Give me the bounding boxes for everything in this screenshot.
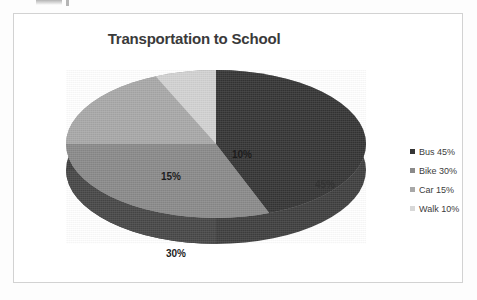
pie-label-bike: 30% <box>166 248 186 259</box>
legend-swatch-icon <box>410 149 415 154</box>
pie-label-bus: 45% <box>315 179 335 190</box>
pie-label-car: 15% <box>161 171 181 182</box>
legend-item-car[interactable]: Car 15% <box>410 180 472 199</box>
chart-screenshot: Transportation to School 45% 30% 15% 10%… <box>0 0 477 300</box>
scan-artifact-mark <box>66 0 69 6</box>
legend-swatch-icon <box>410 168 415 173</box>
pie-top-face <box>66 70 366 218</box>
legend-label: Bus 45% <box>419 147 455 157</box>
chart-frame: Transportation to School 45% 30% 15% 10%… <box>13 13 463 283</box>
chart-legend: Bus 45% Bike 30% Car 15% Walk 10% <box>410 142 472 218</box>
legend-swatch-icon <box>410 187 415 192</box>
legend-label: Walk 10% <box>419 204 459 214</box>
legend-item-bus[interactable]: Bus 45% <box>410 142 472 161</box>
legend-item-bike[interactable]: Bike 30% <box>410 161 472 180</box>
legend-label: Bike 30% <box>419 166 457 176</box>
legend-label: Car 15% <box>419 185 454 195</box>
legend-swatch-icon <box>410 206 415 211</box>
chart-title: Transportation to School <box>14 30 374 47</box>
legend-item-walk[interactable]: Walk 10% <box>410 199 472 218</box>
pie-chart: 45% 30% 15% 10% <box>66 70 366 255</box>
scan-artifact <box>36 0 62 5</box>
pie-label-walk: 10% <box>232 149 252 160</box>
